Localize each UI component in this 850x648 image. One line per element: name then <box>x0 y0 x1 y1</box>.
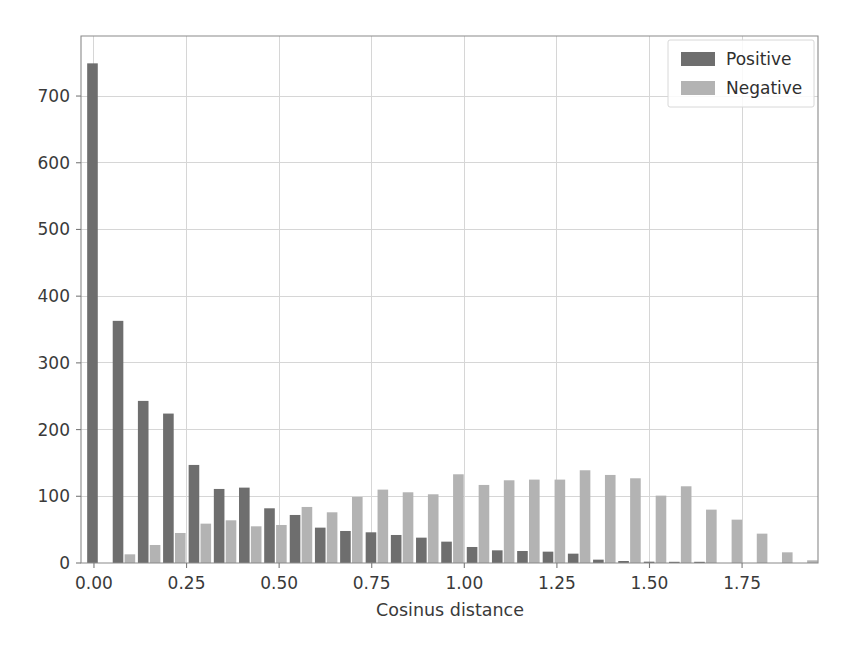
bar-positive <box>189 465 200 563</box>
y-tick-label: 300 <box>38 353 70 373</box>
y-gridlines <box>81 96 818 496</box>
bar-positive <box>239 488 250 563</box>
bar-positive <box>391 535 402 563</box>
bar-negative <box>504 480 515 563</box>
bar-negative <box>732 520 743 563</box>
x-tick-label: 1.00 <box>445 573 483 593</box>
bar-negative <box>428 494 439 563</box>
x-tick-label: 0.50 <box>260 573 298 593</box>
y-tick-label: 100 <box>38 486 70 506</box>
bar-positive <box>340 531 351 563</box>
x-axis-title: Cosinus distance <box>376 600 524 620</box>
x-tick-label: 0.00 <box>75 573 113 593</box>
legend-label-positive: Positive <box>726 49 792 69</box>
bar-negative <box>276 525 287 563</box>
bar-negative <box>201 524 212 563</box>
x-tick-label: 0.25 <box>168 573 206 593</box>
legend-label-negative: Negative <box>726 78 802 98</box>
bar-negative <box>782 552 793 563</box>
y-tick-label: 500 <box>38 219 70 239</box>
y-tick-label: 400 <box>38 286 70 306</box>
bar-negative <box>580 470 591 563</box>
x-tick-label: 1.25 <box>538 573 576 593</box>
bar-negative <box>630 478 641 563</box>
bar-positive <box>416 538 427 563</box>
figure-canvas: 0100200300400500600700 0.000.250.500.751… <box>0 0 850 648</box>
bar-positive <box>517 551 528 563</box>
bar-negative <box>175 533 186 563</box>
bar-positive <box>214 489 225 563</box>
y-tick-label: 600 <box>38 153 70 173</box>
bar-negative <box>706 510 717 563</box>
bar-positive <box>138 401 149 563</box>
bar-positive <box>366 532 377 563</box>
bar-positive <box>568 554 579 563</box>
bar-negative <box>529 480 540 563</box>
bar-negative <box>150 545 161 563</box>
bar-positive <box>467 547 478 563</box>
bar-negative <box>453 474 464 563</box>
bar-negative <box>302 507 313 563</box>
bar-negative <box>251 526 262 563</box>
y-axis-tick-labels: 0100200300400500600700 <box>38 86 70 573</box>
bar-negative <box>327 512 338 563</box>
bar-negative <box>125 554 136 563</box>
bar-negative <box>226 520 237 563</box>
x-tick-label: 1.75 <box>723 573 761 593</box>
bar-positive <box>492 550 503 563</box>
bar-positive <box>315 528 326 563</box>
bar-positive <box>264 508 275 563</box>
y-tick-label: 0 <box>59 553 70 573</box>
y-axis-ticks <box>76 96 81 563</box>
bar-negative <box>479 485 490 563</box>
chart-legend: PositiveNegative <box>668 40 814 107</box>
y-tick-label: 200 <box>38 420 70 440</box>
y-tick-label: 700 <box>38 86 70 106</box>
bar-positive <box>290 515 301 563</box>
bar-positive <box>543 552 554 563</box>
bar-negative <box>352 497 363 563</box>
bar-positive <box>113 321 124 563</box>
bar-negative <box>757 534 768 563</box>
x-axis-tick-labels: 0.000.250.500.751.001.251.501.75 <box>75 573 761 593</box>
bar-positive <box>163 414 174 563</box>
histogram-chart: 0100200300400500600700 0.000.250.500.751… <box>0 0 850 648</box>
legend-swatch-positive <box>681 52 715 66</box>
bar-positive <box>87 63 98 563</box>
x-tick-label: 0.75 <box>353 573 391 593</box>
bar-negative <box>403 492 414 563</box>
x-axis-ticks <box>94 563 742 568</box>
bar-positive <box>441 542 452 563</box>
bar-negative <box>605 475 616 563</box>
bar-negative <box>656 496 667 563</box>
legend-swatch-negative <box>681 81 715 95</box>
x-tick-label: 1.50 <box>631 573 669 593</box>
bar-negative <box>681 486 692 563</box>
bar-negative <box>555 480 566 563</box>
bar-negative <box>378 490 389 563</box>
